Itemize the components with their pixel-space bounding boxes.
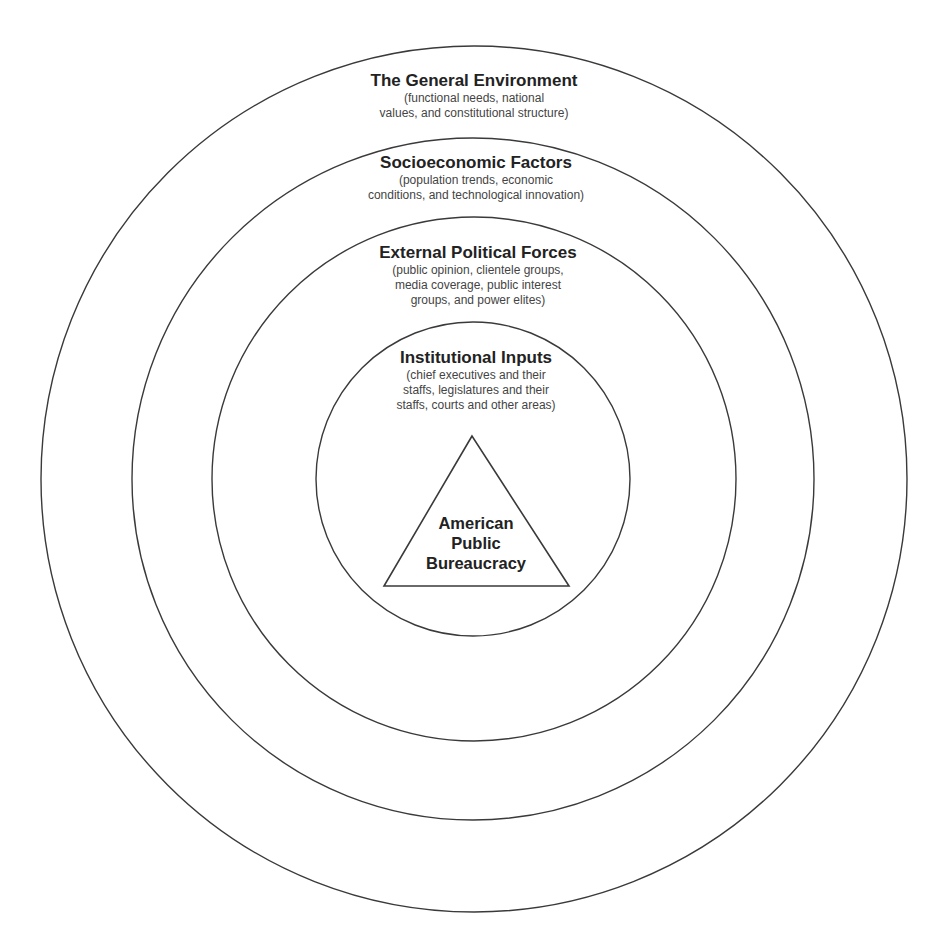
layer-title: External Political Forces [379, 243, 576, 263]
circle-socioeconomic-factors [132, 138, 814, 820]
layer-institutional-inputs: Institutional Inputs (chief executives a… [396, 348, 555, 413]
layer-description-line: staffs, legislatures and their [396, 383, 555, 398]
center-label-line: Bureaucracy [426, 553, 526, 573]
layer-external-political-forces: External Political Forces (public opinio… [379, 243, 576, 308]
layer-title: Socioeconomic Factors [368, 153, 584, 173]
layer-general-environment: The General Environment (functional need… [371, 71, 578, 121]
layer-title: Institutional Inputs [396, 348, 555, 368]
layer-description-line: values, and constitutional structure) [371, 106, 578, 121]
center-label-bureaucracy: American Public Bureaucracy [426, 513, 526, 573]
layer-description-line: conditions, and technological innovation… [368, 188, 584, 203]
layer-description-line: (functional needs, national [371, 91, 578, 106]
layer-description-line: (population trends, economic [368, 173, 584, 188]
layer-description-line: (public opinion, clientele groups, [379, 263, 576, 278]
layer-description-line: groups, and power elites) [379, 293, 576, 308]
layer-title: The General Environment [371, 71, 578, 91]
diagram-shapes [0, 0, 945, 945]
center-label-line: Public [426, 533, 526, 553]
layer-socioeconomic-factors: Socioeconomic Factors (population trends… [368, 153, 584, 203]
center-label-line: American [426, 513, 526, 533]
layer-description-line: (chief executives and their [396, 368, 555, 383]
layer-description-line: media coverage, public interest [379, 278, 576, 293]
layer-description-line: staffs, courts and other areas) [396, 398, 555, 413]
